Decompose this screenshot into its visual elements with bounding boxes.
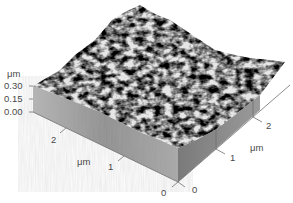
y-tick-2: 2 [51, 135, 56, 145]
y-tick-0: 0 [161, 188, 166, 198]
y-axis-unit: μm [77, 157, 90, 167]
z-tick-0.15: 0.15 [4, 94, 23, 104]
x-tick-0: 0 [192, 185, 197, 195]
z-tick-0.30: 0.30 [4, 81, 23, 91]
z-tick-0.00: 0.00 [4, 107, 23, 117]
x-axis-unit: μm [250, 143, 263, 153]
x-tick-2: 2 [266, 121, 271, 131]
z-axis-unit: μm [7, 69, 20, 79]
y-tick-1: 1 [108, 162, 113, 172]
x-tick-1: 1 [230, 153, 235, 163]
afm-surface-plot [0, 0, 293, 203]
